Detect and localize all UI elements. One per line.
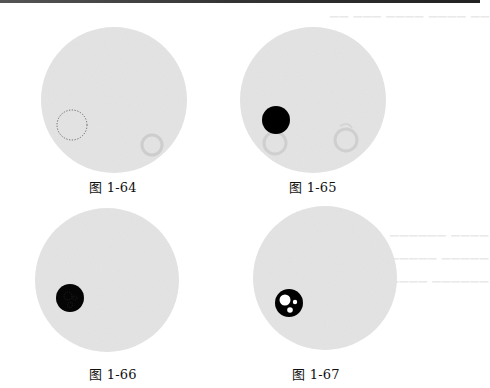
white-hole-large [280,295,291,306]
disc-grain [35,208,179,352]
caption-fig-1-67: 图 1-67 [292,364,340,383]
white-hole-medium [287,307,293,313]
figure-1-64 [41,27,187,173]
figure-1-65 [240,27,386,173]
figure-1-66 [35,208,179,352]
caption-fig-1-65: 图 1-65 [289,177,337,196]
disc-grain [240,27,386,173]
disc-grain [41,27,187,173]
white-hole-small [293,300,297,304]
disc-grain [253,206,397,350]
caption-fig-1-66: 图 1-66 [89,364,137,383]
black-filled-circle [56,284,84,312]
figure-1-67 [253,206,397,350]
caption-fig-1-64: 图 1-64 [89,177,137,196]
black-filled-circle [262,106,290,134]
